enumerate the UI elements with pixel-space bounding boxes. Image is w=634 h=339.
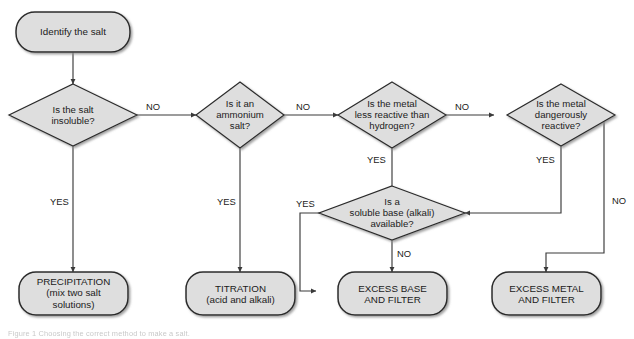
edge-label-d2-no: NO [296,102,310,111]
figure-caption: Figure 1 Choosing the correct method to … [8,329,190,338]
node-result-precipitation[interactable] [19,272,128,315]
edge-label-d1-no: NO [146,102,160,111]
node-result-excess-base[interactable] [338,272,447,315]
node-d4-dangerously-reactive[interactable] [507,84,615,146]
node-d1-is-salt-insoluble[interactable] [9,84,137,146]
edge-label-d3-no: NO [455,102,469,111]
edge-label-d4-no: NO [612,196,626,205]
edge-label-d1-yes: YES [50,197,69,206]
edge-label-d5-yes: YES [296,199,315,208]
node-result-excess-metal[interactable] [492,272,601,315]
edge-label-d4-yes: YES [536,155,555,164]
edge-label-d3-yes: YES [367,155,386,164]
edge-label-d5-no: NO [397,249,411,258]
flowchart-figure: Identify the salt Is the salt insoluble?… [0,0,634,339]
node-d2-is-ammonium-salt[interactable] [196,82,284,148]
edge-d5-yes-to-titration [300,213,328,291]
node-d5-soluble-base-available[interactable] [319,186,465,240]
node-start[interactable] [16,12,130,52]
flowchart-canvas [0,0,634,339]
node-d3-less-reactive-than-hydrogen[interactable] [338,82,446,148]
edge-label-d2-yes: YES [217,197,236,206]
node-result-titration[interactable] [186,272,295,315]
